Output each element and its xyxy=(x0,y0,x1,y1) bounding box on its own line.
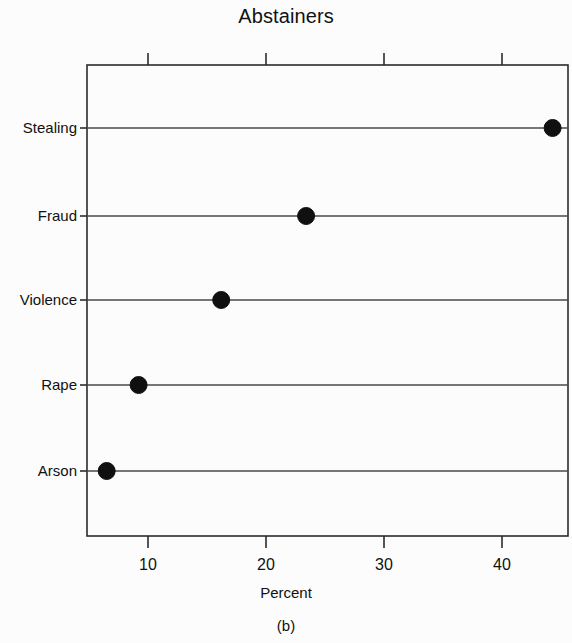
category-label-violence: Violence xyxy=(20,291,77,308)
top-axis-ticks xyxy=(148,53,502,65)
x-tick-label-20: 20 xyxy=(257,556,275,573)
category-label-stealing: Stealing xyxy=(23,119,77,136)
y-axis-ticks xyxy=(80,128,87,471)
dot-plot-canvas: 10 20 30 40 Stealing Fraud Violence Rape xyxy=(0,0,572,575)
data-point-violence xyxy=(213,292,230,309)
category-label-arson: Arson xyxy=(38,462,77,479)
figure-panel-b: Abstainers 10 20 30 40 xyxy=(0,0,572,643)
category-label-rape: Rape xyxy=(41,376,77,393)
x-tick-label-10: 10 xyxy=(139,556,157,573)
data-point-arson xyxy=(98,463,115,480)
category-label-fraud: Fraud xyxy=(38,207,77,224)
data-point-fraud xyxy=(298,208,315,225)
x-axis-title: Percent xyxy=(0,584,572,601)
data-point-rape xyxy=(130,377,147,394)
x-tick-labels: 10 20 30 40 xyxy=(139,556,511,573)
y-axis-labels: Stealing Fraud Violence Rape Arson xyxy=(20,119,77,479)
bottom-axis-ticks xyxy=(148,536,502,548)
x-tick-label-30: 30 xyxy=(375,556,393,573)
category-gridlines xyxy=(87,128,568,471)
x-tick-label-40: 40 xyxy=(493,556,511,573)
data-point-stealing xyxy=(544,120,561,137)
figure-caption: (b) xyxy=(0,617,572,634)
